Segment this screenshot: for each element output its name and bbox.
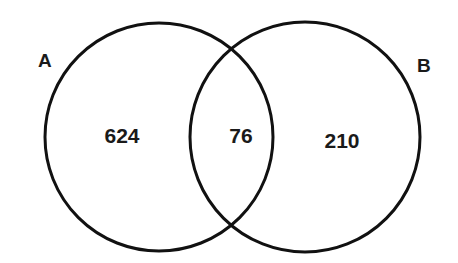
set-b-circle: [190, 22, 420, 252]
set-a-label: A: [38, 50, 52, 71]
set-a-only-count: 624: [104, 124, 139, 147]
set-b-only-count: 210: [324, 129, 359, 152]
set-b-label: B: [417, 55, 431, 76]
intersection-count: 76: [229, 124, 252, 147]
venn-diagram: A B 624 76 210: [0, 0, 458, 263]
